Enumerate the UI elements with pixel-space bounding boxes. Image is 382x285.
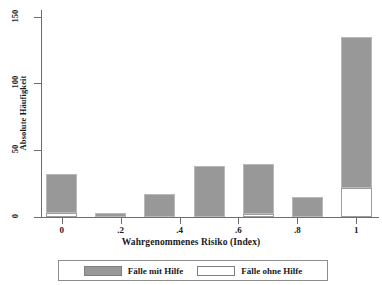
x-tick-mark [180,218,181,224]
bar-segment-mit-hilfe [341,37,372,188]
y-tick-mark [34,17,41,18]
plot-area [41,10,377,217]
y-tick-label: 100 [10,69,20,95]
bar-segment-ohne-hilfe [46,213,77,217]
legend-item: Fälle mit Hilfe [84,266,183,276]
y-tick-mark [34,150,41,151]
bar-column [292,197,323,217]
bar-column [243,164,274,217]
x-tick-label: 1 [341,225,371,235]
x-tick-mark [297,218,298,224]
bar-column [341,37,372,217]
x-tick-label: 0 [47,225,77,235]
bar-segment-mit-hilfe [243,164,274,215]
bar-column [46,174,77,217]
x-axis-title: Wahrgenommenes Risiko (Index) [0,237,382,247]
y-tick-label: 0 [10,203,20,229]
x-tick-label: .4 [165,225,195,235]
legend-label: Fälle ohne Hilfe [241,266,302,276]
y-tick-mark [34,217,41,218]
bar-segment-mit-hilfe [194,166,225,217]
x-tick-mark [62,218,63,224]
legend-swatch-icon [197,266,235,276]
legend-item: Fälle ohne Hilfe [197,266,302,276]
bar-column [95,213,126,217]
chart-legend: Fälle mit HilfeFälle ohne Hilfe [58,260,328,281]
x-tick-mark [238,218,239,224]
bar-segment-ohne-hilfe [243,214,274,217]
x-tick-label: .6 [223,225,253,235]
y-tick-label: 50 [10,136,20,162]
bar-segment-mit-hilfe [144,194,175,217]
bar-column [144,194,175,217]
y-tick-mark [34,83,41,84]
bar-segment-mit-hilfe [292,197,323,217]
y-axis-title: Absolute Häufigkeit [18,38,28,188]
legend-swatch-icon [84,266,122,276]
legend-label: Fälle mit Hilfe [128,266,183,276]
bar-segment-ohne-hilfe [341,188,372,217]
bar-segment-mit-hilfe [46,174,77,213]
x-tick-mark [356,218,357,224]
x-tick-label: .2 [106,225,136,235]
x-axis-line [34,217,379,218]
x-tick-label: .8 [282,225,312,235]
bar-segment-mit-hilfe [95,213,126,217]
bar-column [194,166,225,217]
bar-chart-figure: Absolute Häufigkeit 050100150 0.2.4.6.81… [0,0,382,285]
x-tick-mark [121,218,122,224]
y-tick-label: 150 [10,3,20,29]
